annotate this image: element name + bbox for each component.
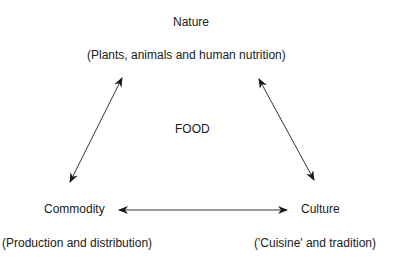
commodity-subtitle: (Production and distribution): [2, 236, 152, 250]
arrow-nature-commodity: [70, 78, 122, 182]
center-label: FOOD: [175, 122, 210, 136]
culture-subtitle: ('Cuisine' and tradition): [254, 236, 376, 250]
nature-subtitle: (Plants, animals and human nutrition): [87, 48, 286, 62]
culture-title: Culture: [301, 202, 340, 216]
nature-title: Nature: [173, 15, 209, 29]
arrow-nature-culture: [259, 79, 314, 180]
commodity-title: Commodity: [44, 202, 105, 216]
